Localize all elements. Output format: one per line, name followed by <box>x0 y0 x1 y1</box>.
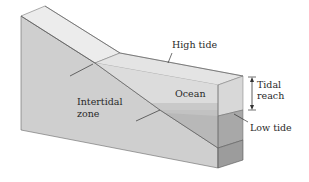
high-tide-leader <box>168 53 172 63</box>
low-tide-label: Low tide <box>250 123 292 134</box>
tidal-reach-label-line2: reach <box>257 91 284 102</box>
high-tide-label: High tide <box>172 40 217 51</box>
tidal-reach-label-line1: Tidal <box>257 80 281 91</box>
intertidal-zone-label-line2: zone <box>77 109 99 120</box>
intertidal-diagram: High tide Tidal reach Ocean Intertidal z… <box>0 0 309 182</box>
ocean-label: Ocean <box>175 89 206 100</box>
tidal-reach-arrow <box>248 77 256 110</box>
intertidal-zone-label-line1: Intertidal <box>77 97 123 108</box>
